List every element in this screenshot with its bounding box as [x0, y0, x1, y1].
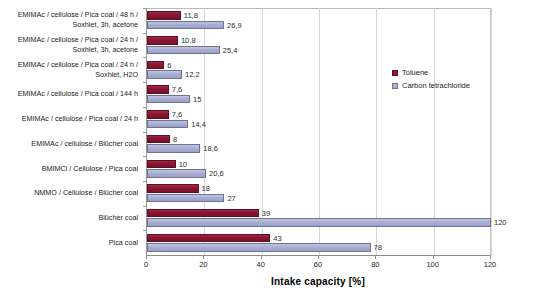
bar-toluene[interactable] — [147, 160, 176, 169]
x-tick — [490, 255, 491, 259]
bar-toluene[interactable] — [147, 61, 164, 70]
x-tick — [146, 255, 147, 259]
x-tick — [318, 255, 319, 259]
x-tick — [375, 255, 376, 259]
legend-item[interactable]: Carbon tetrachloride — [392, 80, 470, 91]
bar-rows: 11,826,910,825,4612,27,6157,614,4818,610… — [147, 8, 490, 255]
bar-value-label: 27 — [227, 195, 235, 203]
bar-toluene[interactable] — [147, 36, 178, 45]
bar-value-label: 11,8 — [184, 12, 198, 20]
bar-value-label: 26,9 — [227, 22, 242, 30]
chart-legend: TolueneCarbon tetrachloride — [392, 67, 470, 93]
bar-group: 4378 — [147, 230, 490, 255]
bar-value-label: 43 — [273, 235, 281, 243]
bar-chart: 11,826,910,825,4612,27,6157,614,4818,610… — [0, 0, 554, 300]
legend-label: Toluene — [402, 67, 428, 78]
x-tick — [261, 255, 262, 259]
bar-value-label: 20,6 — [209, 170, 224, 178]
bar-value-label: 12,2 — [185, 71, 200, 79]
bar-toluene[interactable] — [147, 209, 259, 218]
bar-value-label: 8 — [173, 136, 177, 144]
bar-group: 7,614,4 — [147, 107, 490, 132]
bar-carbon-tetrachloride[interactable] — [147, 46, 220, 55]
bar-carbon-tetrachloride[interactable] — [147, 194, 224, 203]
bar-group: 1827 — [147, 181, 490, 206]
bar-toluene[interactable] — [147, 85, 169, 94]
x-tick-label: 40 — [256, 260, 264, 269]
x-tick-label: 0 — [144, 260, 148, 269]
bar-carbon-tetrachloride[interactable] — [147, 144, 200, 153]
category-label: EMIMAc / cellulose / Pica coal / 24 h / … — [0, 60, 138, 80]
bar-value-label: 18 — [202, 185, 210, 193]
bar-value-label: 15 — [193, 96, 201, 104]
bar-value-label: 7,6 — [172, 86, 182, 94]
x-tick-label: 20 — [199, 260, 207, 269]
category-label: Blücher coal — [0, 213, 138, 223]
x-tick-label: 60 — [314, 260, 322, 269]
bar-toluene[interactable] — [147, 11, 181, 20]
x-tick-label: 100 — [426, 260, 439, 269]
bar-value-label: 7,6 — [172, 111, 182, 119]
bar-value-label: 18,6 — [203, 145, 218, 153]
category-label: EMIMAc / cellulose / Pica coal / 48 h / … — [0, 10, 138, 30]
bar-carbon-tetrachloride[interactable] — [147, 120, 188, 129]
x-tick-label: 80 — [371, 260, 379, 269]
category-label: EMIMAc / cellulose / Blücher coal — [0, 139, 138, 149]
bar-carbon-tetrachloride[interactable] — [147, 70, 182, 79]
bar-group: 39120 — [147, 206, 490, 231]
bar-value-label: 25,4 — [223, 47, 238, 55]
bar-group: 818,6 — [147, 132, 490, 157]
category-label: BMIMCl / Cellulose / Pica coal — [0, 164, 138, 174]
gridline — [491, 8, 492, 255]
x-tick-label: 120 — [484, 260, 497, 269]
legend-item[interactable]: Toluene — [392, 67, 470, 78]
bar-value-label: 10,8 — [181, 37, 196, 45]
bar-value-label: 78 — [374, 244, 382, 252]
bar-toluene[interactable] — [147, 234, 270, 243]
bar-group: 1020,6 — [147, 156, 490, 181]
legend-swatch-icon — [392, 70, 398, 76]
category-label: NMMO / Cellulose / Blücher coal — [0, 188, 138, 198]
plot-area: 11,826,910,825,4612,27,6157,614,4818,610… — [146, 8, 490, 255]
bar-value-label: 6 — [167, 62, 171, 70]
bar-toluene[interactable] — [147, 135, 170, 144]
bar-carbon-tetrachloride[interactable] — [147, 95, 190, 104]
x-tick — [203, 255, 204, 259]
bar-value-label: 39 — [262, 210, 270, 218]
category-label: EMIMAc / cellulose / Pica coal / 24 h — [0, 114, 138, 124]
bar-value-label: 120 — [494, 219, 507, 227]
category-label: EMIMAc / cellulose / Pica coal / 24 h / … — [0, 35, 138, 55]
bar-carbon-tetrachloride[interactable] — [147, 169, 206, 178]
bar-carbon-tetrachloride[interactable] — [147, 218, 491, 227]
legend-swatch-icon — [392, 83, 398, 89]
bar-toluene[interactable] — [147, 184, 199, 193]
x-axis-title: Intake capacity [%] — [146, 276, 490, 287]
bar-carbon-tetrachloride[interactable] — [147, 243, 371, 252]
bar-carbon-tetrachloride[interactable] — [147, 21, 224, 30]
category-axis-labels: EMIMAc / cellulose / Pica coal / 48 h / … — [0, 8, 142, 255]
bar-toluene[interactable] — [147, 110, 169, 119]
x-tick — [433, 255, 434, 259]
category-label: EMIMAc / cellulose / Pica coal / 144 h — [0, 89, 138, 99]
legend-label: Carbon tetrachloride — [402, 80, 470, 91]
bar-value-label: 10 — [179, 161, 187, 169]
bar-value-label: 14,4 — [191, 121, 206, 129]
bar-group: 10,825,4 — [147, 33, 490, 58]
category-label: Pica coal — [0, 238, 138, 248]
bar-group: 11,826,9 — [147, 8, 490, 33]
